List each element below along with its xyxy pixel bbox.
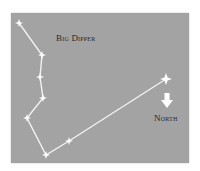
north-label: North — [154, 113, 177, 123]
star-icon — [36, 73, 44, 81]
constellation-diagram — [0, 0, 200, 171]
north-star-icon — [160, 73, 172, 85]
star-icon — [65, 137, 73, 145]
arrow-down-icon — [161, 93, 173, 108]
big-dipper-label: Big Dipper — [56, 33, 95, 43]
star-icon — [42, 151, 50, 159]
